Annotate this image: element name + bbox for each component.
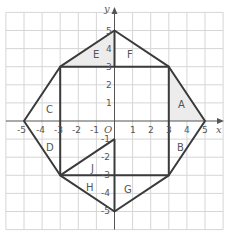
svg-text:-2: -2 xyxy=(101,152,110,162)
region-label-f: F xyxy=(127,49,133,60)
svg-text:-4: -4 xyxy=(101,188,110,198)
svg-text:1: 1 xyxy=(106,98,112,108)
y-axis-label: y xyxy=(103,3,110,14)
svg-text:2: 2 xyxy=(106,80,112,90)
svg-text:1: 1 xyxy=(130,125,136,135)
region-label-g: G xyxy=(124,184,132,195)
svg-text:-2: -2 xyxy=(72,125,81,135)
region-label-b: B xyxy=(177,142,184,153)
region-label-h: H xyxy=(86,182,94,193)
svg-text:2: 2 xyxy=(148,125,154,135)
svg-text:-5: -5 xyxy=(101,206,110,216)
region-label-e: E xyxy=(93,49,99,60)
svg-text:3: 3 xyxy=(166,125,172,135)
svg-text:-3: -3 xyxy=(101,170,110,180)
svg-text:5: 5 xyxy=(202,125,208,135)
svg-text:-3: -3 xyxy=(54,125,63,135)
svg-text:-1: -1 xyxy=(90,125,99,135)
x-tick-labels: -5 -4 -3 -2 -1 1 2 3 4 5 xyxy=(17,125,208,135)
y-axis-arrow-icon xyxy=(112,7,118,14)
svg-text:-1: -1 xyxy=(101,134,110,144)
region-label-a: A xyxy=(178,99,185,110)
region-label-c: C xyxy=(46,104,53,115)
svg-text:3: 3 xyxy=(106,62,112,72)
svg-text:-5: -5 xyxy=(17,125,26,135)
svg-text:5: 5 xyxy=(106,26,112,36)
svg-text:-4: -4 xyxy=(36,125,45,135)
x-axis-label: x xyxy=(216,124,222,135)
svg-text:4: 4 xyxy=(184,125,190,135)
region-label-j: J xyxy=(90,163,94,174)
svg-text:4: 4 xyxy=(106,44,112,54)
coordinate-diagram: x y O -5 -4 -3 -2 -1 1 2 3 4 5 5 4 3 2 1… xyxy=(0,0,225,240)
region-label-d: D xyxy=(46,142,54,153)
